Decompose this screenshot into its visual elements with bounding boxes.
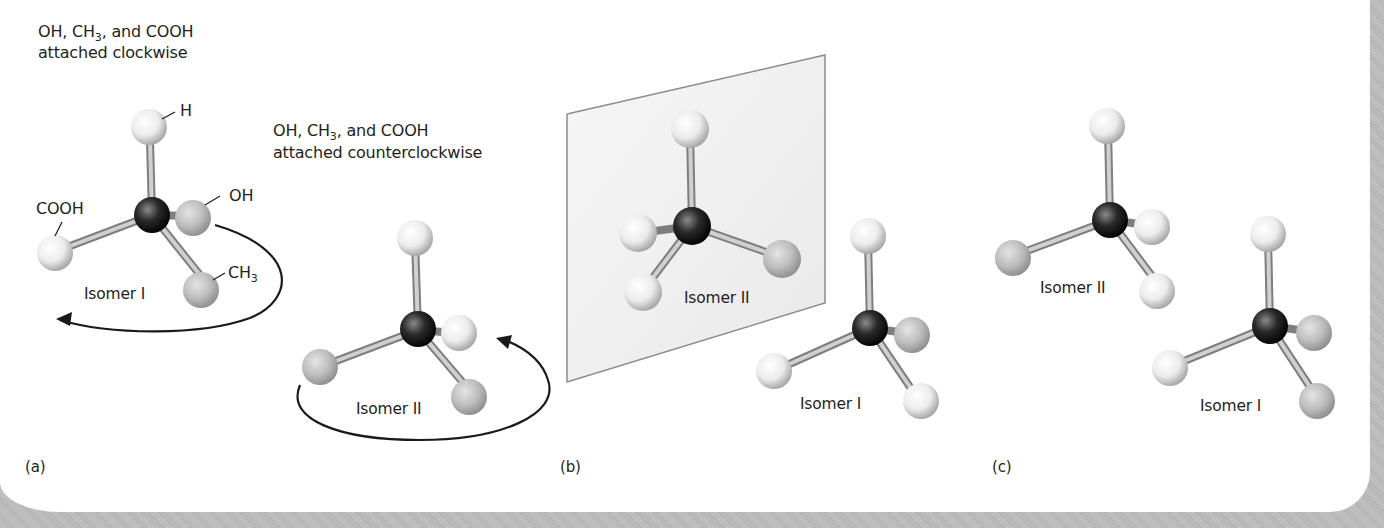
caption-a: (a) <box>25 457 45 478</box>
hydrogen-atom <box>131 109 167 145</box>
isomer-1-molecule-a <box>37 109 282 331</box>
heading-clockwise-line2: attached clockwise <box>38 42 187 63</box>
heading-clockwise-line1: OH, CH3, and COOH <box>38 21 193 42</box>
label-ch3: CH3 <box>228 262 258 283</box>
bottom-atom <box>451 379 487 415</box>
carbon-atom <box>400 311 436 347</box>
isomer-1-label-a: Isomer I <box>84 284 145 305</box>
caption-c: (c) <box>992 457 1011 478</box>
ch3-atom <box>183 272 219 308</box>
rotation-arrow-counterclockwise <box>298 335 550 440</box>
isomer-2-label-b: Isomer II <box>684 288 749 309</box>
right-atom <box>441 315 477 351</box>
isomer-2-molecule-a <box>298 220 550 440</box>
left-atom <box>302 349 338 385</box>
caption-b: (b) <box>560 457 581 478</box>
label-cooh: COOH <box>36 198 84 219</box>
isomer-1-label-b: Isomer I <box>800 394 861 415</box>
isomer-2-label-c: Isomer II <box>1040 278 1105 299</box>
carbon-atom <box>134 197 170 233</box>
isomer-2-label-a: Isomer II <box>356 399 421 420</box>
label-oh: OH <box>229 185 253 206</box>
oh-atom <box>175 200 211 236</box>
heading-counterclockwise-line2: attached counterclockwise <box>273 142 482 163</box>
top-atom <box>397 220 433 256</box>
molecule-diagram <box>0 0 1384 528</box>
isomer-1-label-c: Isomer I <box>1200 396 1261 417</box>
label-h: H <box>180 100 192 121</box>
cooh-atom <box>37 235 73 271</box>
isomer-1-molecule-c <box>1152 216 1335 419</box>
heading-counterclockwise-line1: OH, CH3, and COOH <box>273 120 428 141</box>
